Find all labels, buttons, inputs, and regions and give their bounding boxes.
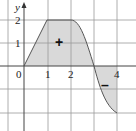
y-axis-label: y — [15, 2, 20, 13]
y-tick-2: 2 — [15, 15, 21, 26]
x-tick-0: 0 — [16, 69, 22, 80]
x-tick-2: 2 — [68, 69, 74, 80]
negative-region-sign: – — [101, 78, 109, 92]
y-axis-arrow-icon — [22, 2, 27, 8]
positive-region-sign: + — [55, 35, 63, 49]
x-tick-4: 4 — [114, 69, 120, 80]
x-tick-1: 1 — [45, 69, 51, 80]
y-tick-1: 1 — [15, 38, 21, 49]
